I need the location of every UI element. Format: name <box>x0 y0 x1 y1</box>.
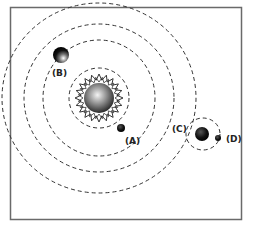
solar-system-diagram: (A) (B) (C) (D) <box>0 0 253 226</box>
planet-b-icon <box>53 47 69 63</box>
label-b: (B) <box>52 68 67 78</box>
label-d: (D) <box>226 134 242 144</box>
label-c: (C) <box>172 124 187 134</box>
star-body-icon <box>84 83 114 113</box>
moon-d-icon <box>215 135 221 141</box>
label-a: (A) <box>125 136 140 146</box>
planet-a-icon <box>117 124 125 132</box>
planet-c-icon <box>195 127 209 141</box>
